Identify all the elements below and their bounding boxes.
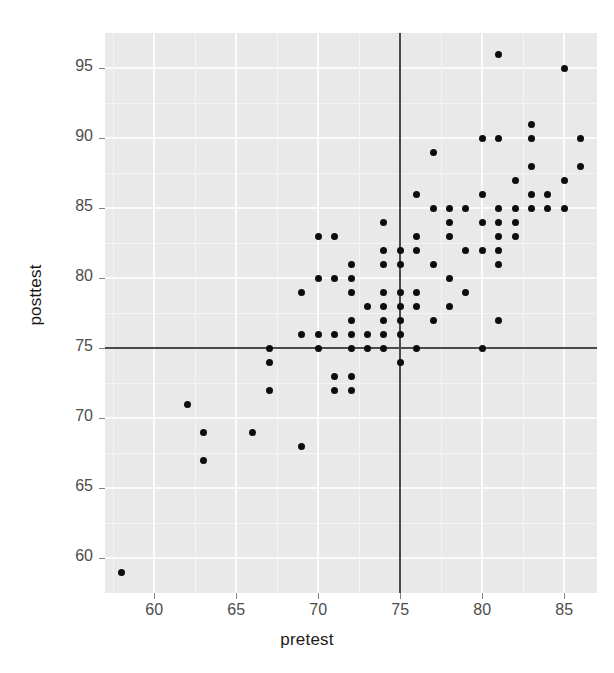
data-point (348, 261, 355, 268)
y-tick-mark (99, 558, 105, 559)
data-point (446, 275, 453, 282)
y-tick-mark (99, 348, 105, 349)
data-point (561, 65, 568, 72)
y-tick-label: 90 (47, 127, 93, 145)
data-point (380, 345, 387, 352)
data-point (331, 233, 338, 240)
data-point (380, 261, 387, 268)
scatter-plot-figure: 6065707580859095 606570758085 posttest p… (0, 0, 614, 673)
x-tick-label: 60 (134, 601, 174, 619)
data-point (446, 219, 453, 226)
data-point (298, 443, 305, 450)
data-point (397, 261, 404, 268)
data-point (380, 289, 387, 296)
y-tick-mark (99, 278, 105, 279)
data-point (348, 345, 355, 352)
gridline (359, 33, 360, 593)
gridline (317, 33, 319, 593)
x-axis-title: pretest (0, 630, 614, 650)
data-point (430, 261, 437, 268)
data-point (413, 345, 420, 352)
data-point (266, 387, 273, 394)
plot-panel (105, 33, 597, 593)
gridline (195, 33, 196, 593)
data-point (528, 121, 535, 128)
reference-line-vertical (399, 33, 401, 593)
data-point (249, 429, 256, 436)
gridline (113, 33, 114, 593)
data-point (479, 191, 486, 198)
data-point (495, 135, 502, 142)
data-point (200, 429, 207, 436)
y-tick-mark (99, 418, 105, 419)
data-point (528, 135, 535, 142)
data-point (118, 569, 125, 576)
gridline (563, 33, 565, 593)
data-point (380, 317, 387, 324)
data-point (315, 345, 322, 352)
data-point (512, 177, 519, 184)
y-tick-label: 85 (47, 197, 93, 215)
data-point (397, 359, 404, 366)
data-point (462, 289, 469, 296)
x-tick-label: 70 (298, 601, 338, 619)
data-point (413, 233, 420, 240)
x-tick-label: 75 (380, 601, 420, 619)
data-point (397, 317, 404, 324)
gridline (277, 33, 278, 593)
data-point (413, 191, 420, 198)
data-point (380, 247, 387, 254)
data-point (430, 317, 437, 324)
data-point (331, 387, 338, 394)
data-point (512, 233, 519, 240)
data-point (561, 177, 568, 184)
x-tick-label: 85 (544, 601, 584, 619)
data-point (397, 247, 404, 254)
data-point (413, 303, 420, 310)
y-tick-label: 95 (47, 57, 93, 75)
x-tick-label: 65 (216, 601, 256, 619)
x-tick-mark (482, 593, 483, 599)
x-tick-mark (318, 593, 319, 599)
y-tick-label: 60 (47, 547, 93, 565)
data-point (561, 205, 568, 212)
data-point (348, 331, 355, 338)
x-tick-mark (154, 593, 155, 599)
data-point (184, 401, 191, 408)
data-point (544, 205, 551, 212)
data-point (413, 289, 420, 296)
data-point (528, 191, 535, 198)
data-point (380, 303, 387, 310)
data-point (331, 331, 338, 338)
y-tick-mark (99, 68, 105, 69)
data-point (397, 331, 404, 338)
data-point (462, 247, 469, 254)
y-tick-label: 80 (47, 267, 93, 285)
data-point (413, 247, 420, 254)
x-tick-mark (236, 593, 237, 599)
data-point (331, 275, 338, 282)
data-point (462, 205, 469, 212)
gridline (481, 33, 483, 593)
data-point (495, 233, 502, 240)
data-point (348, 317, 355, 324)
data-point (315, 233, 322, 240)
data-point (364, 345, 371, 352)
data-point (397, 303, 404, 310)
data-point (528, 205, 535, 212)
gridline (235, 33, 237, 593)
data-point (512, 219, 519, 226)
data-point (495, 247, 502, 254)
gridline (153, 33, 155, 593)
data-point (495, 317, 502, 324)
gridline (441, 33, 442, 593)
data-point (512, 205, 519, 212)
data-point (397, 289, 404, 296)
data-point (348, 289, 355, 296)
data-point (348, 373, 355, 380)
data-point (331, 373, 338, 380)
x-tick-mark (564, 593, 565, 599)
data-point (430, 205, 437, 212)
data-point (298, 289, 305, 296)
data-point (577, 135, 584, 142)
